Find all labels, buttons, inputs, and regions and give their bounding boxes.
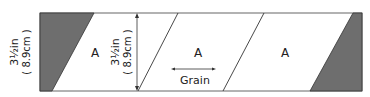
diagram-canvas: 3½in ( 8.9cm ) 3½in ( 8.9cm ) A A A Grai… (0, 0, 370, 97)
piece-label: A (194, 46, 203, 60)
strip-height-metric: ( 8.9cm ) (21, 29, 32, 74)
inner-height-metric: ( 8.9cm ) (122, 29, 133, 74)
piece-label: A (91, 46, 100, 60)
inner-height-imperial: 3½in (109, 38, 122, 66)
grain-label: Grain (180, 74, 210, 87)
piece-label: A (281, 46, 290, 60)
strip-height-imperial: 3½in (8, 38, 21, 66)
